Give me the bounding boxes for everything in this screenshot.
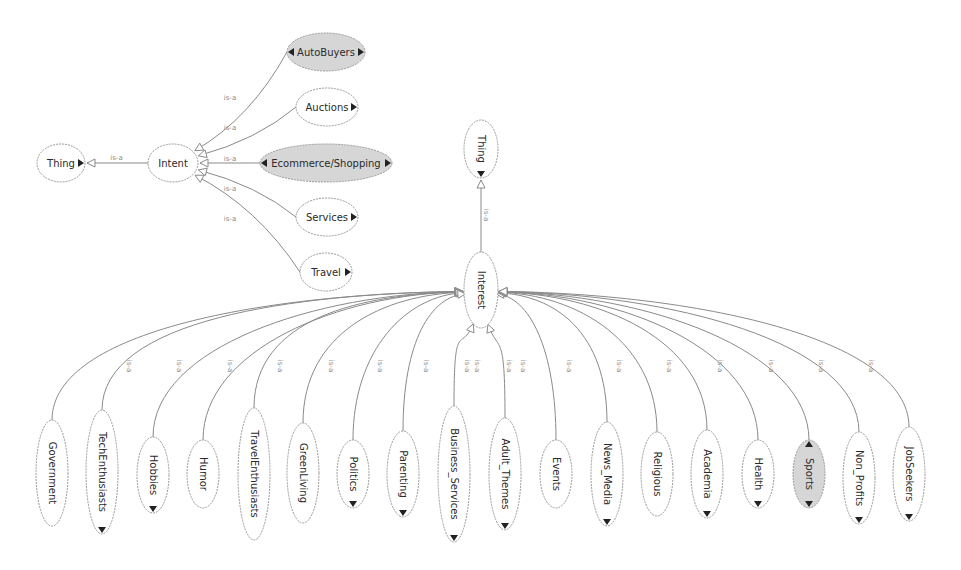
node-label: Humor [198,457,209,492]
edge-label: is-a [482,209,490,221]
node-adult-themes[interactable]: Adult_Themes [489,418,521,530]
edge-label: is-a [716,360,724,372]
edge-label: is-a [463,360,471,372]
node-intent[interactable]: Intent [148,144,198,182]
node-academia[interactable]: Academia [691,430,723,518]
node-label: Thing [476,134,487,163]
node-events[interactable]: Events [540,440,572,508]
edge-hobbies-interest [153,292,463,437]
node-label: Business_Services [448,428,460,519]
node-autobuyers[interactable]: AutoBuyers [287,33,365,71]
node-greenliving[interactable]: GreenLiving [287,423,319,523]
node-label: Events [551,457,562,491]
edge-label: is-a [767,360,775,372]
node-label: Religious [652,452,663,497]
node-label: TravelEnthusiasts [249,429,260,517]
node-sports[interactable]: Sports [793,440,825,508]
edge-label: is-a [473,360,481,372]
node-services[interactable]: Services [296,198,358,236]
edge-label: is-a [224,94,236,102]
node-label: GreenLiving [298,443,309,503]
edge-label: is-a [110,154,122,162]
node-ecommerce-shopping[interactable]: Ecommerce/Shopping [260,144,392,182]
arrowhead-icon [198,168,207,176]
edge-auctions-intent [198,107,296,156]
node-label: Hobbies [148,455,159,495]
node-humor[interactable]: Humor [187,440,219,508]
edge-label: is-a [276,360,284,372]
edge-techenthusiasts-interest [102,291,463,410]
edge-label: is-a [615,360,623,372]
ontology-graph-canvas[interactable]: is-ais-ais-ais-ais-ais-ais-ais-ais-ais-a… [0,0,961,570]
edge-academia-interest [499,292,707,430]
arrowhead-icon [195,143,204,150]
arrowhead-icon [487,324,495,333]
node-hobbies[interactable]: Hobbies [137,437,169,513]
node-interest[interactable]: Interest [464,252,498,328]
node-label: Parenting [398,450,409,497]
edges-layer: is-ais-ais-ais-ais-ais-ais-ais-ais-ais-a… [52,52,909,440]
node-techenthusiasts[interactable]: TechEnthusiasts [86,410,118,534]
node-label: Thing [46,158,75,169]
node-label: Auctions [305,102,348,113]
edge-adult-themes-interest [488,324,505,418]
node-label: Interest [476,271,487,310]
node-news-media[interactable]: News_Media [591,422,623,526]
node-label: Intent [158,158,188,169]
node-label: Services [306,212,348,223]
arrowhead-icon [477,180,485,188]
arrowhead-icon [200,159,208,167]
edge-label: is-a [224,185,236,193]
node-label: TechEnthusiasts [97,431,108,512]
edge-sports-interest [499,292,809,440]
node-label: Politics [348,457,359,492]
node-travel[interactable]: Travel [300,253,352,291]
node-thing[interactable]: Thing [464,120,498,178]
edge-label: is-a [817,360,825,372]
node-label: Non_Profits [853,450,865,506]
edge-label: is-a [867,360,875,372]
node-auctions[interactable]: Auctions [296,88,358,126]
node-government[interactable]: Government [36,420,68,526]
edge-label: is-a [226,360,234,372]
edge-services-intent [198,170,296,217]
node-non-profits[interactable]: Non_Profits [843,432,875,524]
edge-label: is-a [224,155,236,163]
node-travelenthusiasts[interactable]: TravelEnthusiasts [238,408,270,540]
edge-label: is-a [175,360,183,372]
edge-autobuyers-intent [195,52,287,151]
node-label: Adult_Themes [499,439,511,510]
edge-label: is-a [519,360,527,372]
edge-label: is-a [125,360,133,372]
edge-label: is-a [505,360,513,372]
edge-label: is-a [224,215,236,223]
node-thing[interactable]: Thing [37,144,85,182]
node-label: News_Media [601,443,613,505]
node-label: AutoBuyers [297,47,355,58]
node-health[interactable]: Health [742,440,774,508]
edge-label: is-a [376,360,384,372]
arrowhead-icon [195,175,204,182]
node-label: Government [47,442,58,504]
node-label: JobSeekers [904,446,915,502]
arrowhead-icon [198,150,207,158]
edge-greenliving-interest [303,292,463,423]
node-business-services[interactable]: Business_Services [438,406,470,542]
edge-label: is-a [327,360,335,372]
node-label: Health [753,458,764,491]
edge-government-interest [52,291,463,420]
node-jobseekers[interactable]: JobSeekers [893,427,925,521]
node-religious[interactable]: Religious [641,432,673,516]
edge-label: is-a [422,360,430,372]
node-label: Ecommerce/Shopping [271,158,380,169]
node-label: Sports [804,458,815,490]
node-label: Travel [310,267,341,278]
node-parenting[interactable]: Parenting [387,431,419,517]
edge-label: is-a [224,124,236,132]
edge-non-profits-interest [499,291,859,432]
edge-label: is-a [665,360,673,372]
nodes-layer: ThingIntentAutoBuyersAuctionsEcommerce/S… [36,33,925,542]
arrowhead-icon [87,159,95,167]
node-politics[interactable]: Politics [337,440,369,508]
node-label: Academia [702,449,713,498]
